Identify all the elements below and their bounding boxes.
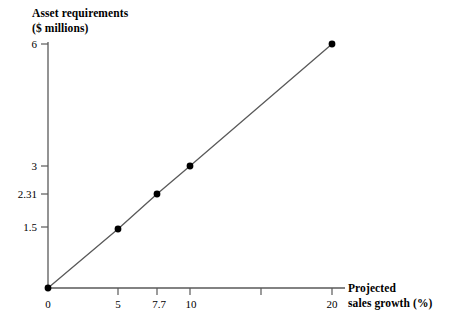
x-axis-title: Projected sales growth (%) (348, 281, 432, 311)
y-tick-label-2-31: 2.31 (5, 188, 37, 200)
data-point-7-7 (154, 191, 161, 198)
x-tick-label-7-7: 7.7 (152, 298, 166, 310)
y-tick-label-1-5: 1.5 (5, 221, 37, 233)
x-tick-label-5: 5 (115, 298, 121, 310)
y-tick-label-6: 6 (5, 38, 37, 50)
chart-figure: Asset requirements ($ millions) Projecte… (0, 0, 450, 332)
y-axis-title-line1: Asset requirements (32, 6, 128, 21)
data-point-5 (115, 226, 122, 233)
x-tick-label-10: 10 (186, 298, 197, 310)
data-point-20 (329, 41, 336, 48)
y-axis-title: Asset requirements ($ millions) (32, 6, 128, 36)
y-axis-title-line2: ($ millions) (32, 21, 128, 36)
data-point-0 (45, 285, 52, 292)
x-tick-label-20: 20 (327, 298, 338, 310)
x-axis-title-line1: Projected (348, 281, 432, 296)
y-tick-label-3: 3 (5, 160, 37, 172)
data-point-10 (187, 163, 194, 170)
x-tick-label-0: 0 (45, 298, 51, 310)
x-axis-title-line2: sales growth (%) (348, 296, 432, 311)
